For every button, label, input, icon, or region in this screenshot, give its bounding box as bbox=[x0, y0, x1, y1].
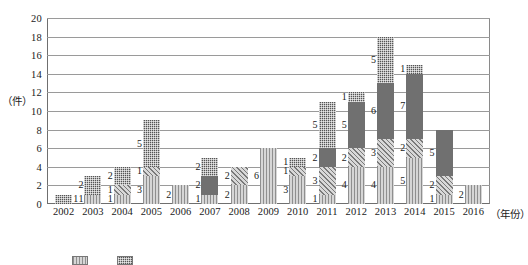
bar-value-label: 6 bbox=[254, 171, 259, 181]
stacked-bar[interactable]: 2 bbox=[172, 185, 189, 204]
bar-segment: 3 bbox=[377, 139, 394, 167]
bar-value-label: 1 bbox=[78, 194, 83, 204]
y-axis-ticks: 02468101214161820 bbox=[0, 18, 42, 204]
bar-value-label: 1 bbox=[342, 92, 347, 102]
bar-segment: 3 bbox=[319, 167, 336, 195]
bar-segment: 6 bbox=[260, 148, 277, 204]
bar-segment: 6 bbox=[377, 83, 394, 139]
bar-value-label: 2 bbox=[108, 171, 113, 181]
bar-slot: 311 bbox=[283, 18, 312, 204]
bar-slot: 112 bbox=[108, 18, 137, 204]
bar-segment: 5 bbox=[143, 120, 160, 167]
bar-segment: 1 bbox=[289, 158, 306, 167]
stacked-bar[interactable]: 315 bbox=[143, 120, 160, 204]
legend-swatch bbox=[72, 256, 88, 265]
x-axis-tick-label: 2011 bbox=[312, 206, 341, 222]
legend-item bbox=[117, 256, 136, 265]
bar-segment: 5 bbox=[348, 102, 365, 149]
bar-slot: 6 bbox=[254, 18, 283, 204]
bar-value-label: 1 bbox=[108, 194, 113, 204]
bar-segment: 2 bbox=[348, 148, 365, 167]
stacked-bar[interactable]: 311 bbox=[289, 158, 306, 204]
legend-swatch bbox=[117, 256, 133, 265]
x-axis-tick-label: 2012 bbox=[342, 206, 371, 222]
legend-item bbox=[72, 256, 91, 265]
stacked-bar[interactable]: 125 bbox=[436, 130, 453, 204]
y-axis-tick-label: 18 bbox=[31, 31, 42, 42]
bar-segment: 2 bbox=[201, 176, 218, 195]
bar-segment: 1 bbox=[201, 195, 218, 204]
bar-segment: 1 bbox=[114, 185, 131, 194]
bar-slot: 12 bbox=[78, 18, 107, 204]
stacked-bar[interactable]: 112 bbox=[114, 167, 131, 204]
bar-segment: 2 bbox=[201, 158, 218, 177]
bar-value-label: 1 bbox=[108, 185, 113, 195]
x-axis-tick-label: 2002 bbox=[49, 206, 78, 222]
bar-segment: 1 bbox=[348, 92, 365, 101]
bar-segment: 4 bbox=[348, 167, 365, 204]
bar-segment: 2 bbox=[231, 185, 248, 204]
bar-segment: 1 bbox=[55, 195, 72, 204]
bar-segment: 1 bbox=[319, 195, 336, 204]
bar-value-label: 3 bbox=[313, 176, 318, 186]
bar-value-label: 2 bbox=[430, 180, 435, 190]
stacked-bar[interactable]: 4251 bbox=[348, 92, 365, 204]
bar-segment: 3 bbox=[143, 176, 160, 204]
y-axis-tick-label: 8 bbox=[37, 124, 42, 135]
stacked-bar[interactable]: 5271 bbox=[406, 65, 423, 204]
bar-value-label: 2 bbox=[195, 180, 200, 190]
stacked-bar[interactable]: 4365 bbox=[377, 37, 394, 204]
chart-legend bbox=[72, 256, 136, 265]
x-axis-tick-label: 2006 bbox=[166, 206, 195, 222]
y-axis-tick-label: 12 bbox=[31, 87, 42, 98]
stacked-bar[interactable]: 6 bbox=[260, 148, 277, 204]
bar-segment: 5 bbox=[436, 130, 453, 177]
bar-value-label: 5 bbox=[430, 148, 435, 158]
plot-area: 112112315212222631113254251436552711252 bbox=[47, 18, 490, 204]
bar-value-label: 1 bbox=[283, 166, 288, 176]
bar-value-label: 1 bbox=[283, 157, 288, 167]
bar-value-label: 5 bbox=[400, 176, 405, 186]
y-axis-tick-label: 6 bbox=[37, 143, 42, 154]
bar-value-label: 7 bbox=[400, 101, 405, 111]
bar-segment: 2 bbox=[172, 185, 189, 204]
stacked-bar[interactable]: 1325 bbox=[319, 102, 336, 204]
bar-segment: 1 bbox=[289, 167, 306, 176]
x-axis-ticks: 2002200320042005200620072008200920102011… bbox=[47, 206, 490, 222]
bar-segment: 5 bbox=[319, 102, 336, 149]
bar-segment: 1 bbox=[114, 195, 131, 204]
x-axis-tick-label: 2016 bbox=[459, 206, 488, 222]
x-axis-tick-label: 2005 bbox=[137, 206, 166, 222]
bar-slot: 22 bbox=[225, 18, 254, 204]
x-axis-tick-label: 2004 bbox=[108, 206, 137, 222]
y-axis-title: （件） bbox=[2, 96, 18, 107]
bar-segment: 2 bbox=[84, 176, 101, 195]
bar-value-label: 6 bbox=[371, 106, 376, 116]
bar-slot: 2 bbox=[459, 18, 488, 204]
bar-segment: 5 bbox=[406, 158, 423, 205]
y-axis-tick-label: 0 bbox=[37, 199, 42, 210]
x-axis-title: （年份） bbox=[490, 206, 528, 221]
y-axis-tick-label: 10 bbox=[31, 106, 42, 117]
x-axis-tick-label: 2010 bbox=[283, 206, 312, 222]
bar-segment: 1 bbox=[436, 195, 453, 204]
bar-segment: 2 bbox=[231, 167, 248, 186]
bar-value-label: 3 bbox=[137, 185, 142, 195]
stacked-bar[interactable]: 122 bbox=[201, 158, 218, 204]
bar-value-label: 4 bbox=[371, 180, 376, 190]
bar-series-container: 112112315212222631113254251436552711252 bbox=[47, 18, 490, 204]
bar-value-label: 1 bbox=[313, 194, 318, 204]
y-axis-tick-label: 2 bbox=[37, 180, 42, 191]
bar-value-label: 2 bbox=[313, 153, 318, 163]
bar-segment: 5 bbox=[377, 37, 394, 84]
bar-value-label: 2 bbox=[225, 190, 230, 200]
y-axis-tick-label: 16 bbox=[31, 50, 42, 61]
stacked-bar[interactable]: 1 bbox=[55, 195, 72, 204]
bar-value-label: 2 bbox=[195, 162, 200, 172]
bar-segment: 2 bbox=[465, 185, 482, 204]
stacked-bar[interactable]: 12 bbox=[84, 176, 101, 204]
stacked-bar[interactable]: 2 bbox=[465, 185, 482, 204]
bar-value-label: 5 bbox=[342, 120, 347, 130]
stacked-bar[interactable]: 22 bbox=[231, 167, 248, 204]
